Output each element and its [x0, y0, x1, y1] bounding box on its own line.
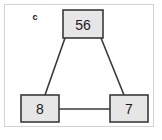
- node-bottom-right-value: 7: [125, 101, 133, 117]
- panel-label: c: [32, 12, 37, 22]
- edge-top-to-bottom-left: [45, 38, 65, 95]
- node-top-value: 56: [75, 17, 91, 33]
- node-bottom-left: 8: [21, 95, 59, 122]
- figure-root: c 56 8 7: [0, 0, 162, 140]
- node-bottom-right: 7: [110, 95, 148, 122]
- triangle-diagram: c 56 8 7: [0, 0, 162, 140]
- node-top: 56: [63, 10, 103, 38]
- edge-top-to-bottom-right: [101, 38, 124, 95]
- node-bottom-left-value: 8: [36, 101, 44, 117]
